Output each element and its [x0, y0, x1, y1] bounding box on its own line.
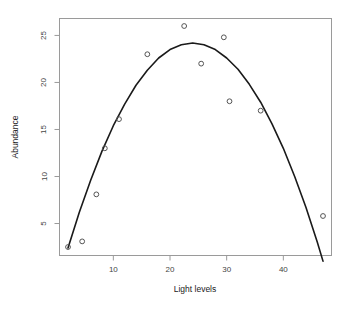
chart-container: 510152025 10203040 Light levels Abundanc… — [0, 0, 342, 310]
x-tick-label: 30 — [222, 265, 231, 274]
x-tick-label: 40 — [279, 265, 288, 274]
y-tick-label: 20 — [40, 77, 49, 86]
y-tick-label: 10 — [40, 172, 49, 181]
y-axis-title: Abundance — [10, 115, 20, 158]
x-tick-label: 20 — [166, 265, 175, 274]
plot-background — [0, 0, 342, 310]
x-tick-label: 10 — [109, 265, 118, 274]
y-tick-label: 5 — [40, 221, 49, 226]
y-tick-label: 15 — [40, 124, 49, 133]
y-tick-label: 25 — [40, 30, 49, 39]
scatter-plot-svg: 510152025 10203040 Light levels Abundanc… — [0, 0, 342, 310]
x-axis-title: Light levels — [174, 284, 217, 294]
